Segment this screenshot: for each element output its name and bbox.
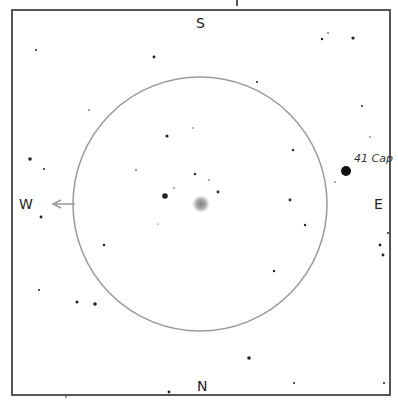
direction-label-west: W [19,197,33,211]
direction-label-north: N [197,379,207,393]
chart-frame [11,9,391,396]
star-label-41-cap: 41 Cap [354,152,393,165]
direction-label-south: S [196,16,205,30]
direction-label-east: E [374,197,383,211]
star [65,396,67,398]
